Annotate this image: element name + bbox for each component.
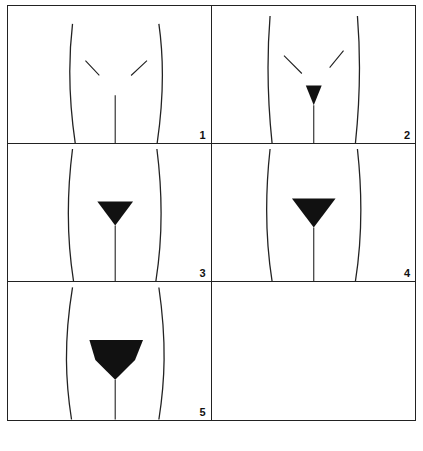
- stage-panel-1: 1: [8, 6, 212, 144]
- shaded-region: [89, 340, 143, 380]
- outline-figure-1: [8, 6, 211, 143]
- shaded-region: [291, 199, 335, 228]
- stage-number: 2: [404, 129, 410, 141]
- stage-panel-2: 2: [212, 6, 416, 144]
- staging-diagram-grid: 1 2 3 4: [7, 5, 416, 421]
- empty-panel: [212, 282, 416, 420]
- shaded-region: [305, 85, 321, 105]
- stage-panel-3: 3: [8, 144, 212, 282]
- outline-figure-2: [212, 6, 416, 143]
- stage-number: 1: [199, 129, 205, 141]
- stage-number: 5: [199, 406, 205, 418]
- stage-panel-5: 5: [8, 282, 212, 420]
- outline-figure-5: [8, 282, 211, 420]
- stage-number: 4: [404, 267, 410, 279]
- outline-figure-3: [8, 144, 211, 281]
- outline-figure-4: [212, 144, 416, 281]
- stage-panel-4: 4: [212, 144, 416, 282]
- shaded-region: [97, 202, 133, 226]
- stage-number: 3: [199, 267, 205, 279]
